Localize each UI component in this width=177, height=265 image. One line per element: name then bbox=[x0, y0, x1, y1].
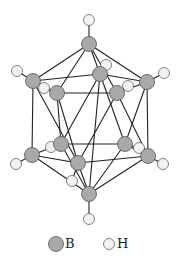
boron-atom-B4 bbox=[93, 67, 108, 82]
bond-B11-B9 bbox=[78, 156, 148, 163]
boron-atom-B7 bbox=[25, 148, 40, 163]
boron-atoms bbox=[25, 37, 156, 202]
hydrogen-atom-H2 bbox=[12, 66, 23, 77]
boron-atom-B8 bbox=[54, 137, 69, 152]
bond-B1-B2 bbox=[33, 44, 89, 81]
boron-boron-bonds bbox=[32, 44, 148, 194]
hydrogen-atom-H11 bbox=[158, 159, 169, 170]
hydrogen-atom-H9 bbox=[67, 176, 78, 187]
boron-atom-B6 bbox=[140, 75, 155, 90]
borane-icosahedron-diagram bbox=[0, 0, 177, 265]
bond-B6-B11 bbox=[147, 82, 148, 156]
boron-atom-B2 bbox=[26, 74, 41, 89]
hydrogen-atom-H7 bbox=[11, 159, 22, 170]
legend-label-hydrogen: H bbox=[117, 236, 128, 252]
bond-B2-B7 bbox=[32, 81, 33, 155]
boron-atom-B9 bbox=[71, 156, 86, 171]
boron-atom-B11 bbox=[141, 149, 156, 164]
hydrogen-legend-icon bbox=[102, 237, 116, 251]
hydrogen-atom-H12 bbox=[84, 214, 95, 225]
bond-B4-B12 bbox=[89, 74, 100, 194]
bond-B12-B11 bbox=[89, 156, 148, 194]
bond-B1-B3 bbox=[57, 44, 89, 93]
legend: B H bbox=[0, 233, 177, 257]
boron-atom-B5 bbox=[110, 86, 125, 101]
boron-atom-B12 bbox=[82, 187, 97, 202]
hydrogen-atom-H6 bbox=[159, 68, 170, 79]
boron-atom-B3 bbox=[50, 86, 65, 101]
boron-atom-B10 bbox=[118, 137, 133, 152]
bond-B12-B10 bbox=[89, 144, 125, 194]
boron-atom-B1 bbox=[82, 37, 97, 52]
hydrogen-atom-H1 bbox=[84, 15, 95, 26]
boron-legend-icon bbox=[47, 235, 65, 253]
legend-label-boron: B bbox=[65, 236, 75, 252]
bond-B4-B2 bbox=[33, 74, 100, 81]
